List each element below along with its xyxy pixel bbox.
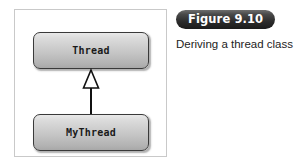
diagram-frame: Thread MyThread: [14, 9, 167, 157]
generalization-hollow-triangle: [84, 70, 99, 88]
class-box-thread-label: Thread: [72, 45, 109, 56]
figure-caption-text: Deriving a thread class: [176, 37, 298, 51]
figure-caption-block: Figure 9.10 Deriving a thread class: [176, 9, 298, 51]
class-box-mythread[interactable]: MyThread: [33, 114, 149, 151]
class-box-mythread-label: MyThread: [66, 127, 116, 138]
figure-number-badge: Figure 9.10: [176, 10, 275, 29]
generalization-arrow-icon: [77, 68, 105, 116]
class-box-thread[interactable]: Thread: [33, 32, 149, 69]
